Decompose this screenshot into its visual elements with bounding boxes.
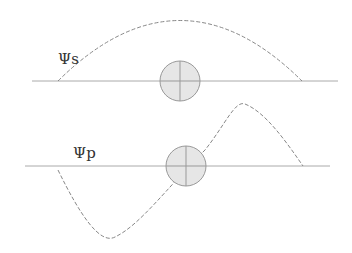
psi-p-nucleus-icon (166, 146, 206, 186)
psi-p-label: Ψp (73, 144, 96, 162)
psi-p-group: Ψp (25, 104, 330, 239)
orbital-wavefunction-diagram: Ψs Ψp (0, 0, 352, 253)
psi-s-group: Ψs (32, 21, 338, 102)
psi-s-label: Ψs (58, 50, 79, 68)
psi-s-nucleus-icon (160, 61, 200, 101)
